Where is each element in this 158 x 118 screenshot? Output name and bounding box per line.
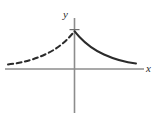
- curve-left-branch-dashed: [8, 31, 75, 64]
- plot-canvas: [0, 0, 158, 118]
- curve-right-branch-solid: [75, 31, 137, 63]
- y-axis-label: y: [63, 9, 68, 20]
- x-axis-label: x: [146, 63, 151, 74]
- cusp-peak-curve-figure: y x: [0, 0, 158, 118]
